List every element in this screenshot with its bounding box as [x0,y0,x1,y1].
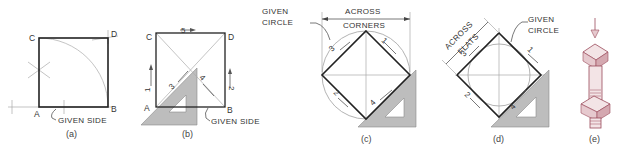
given-circle-label-line-1: GIVEN [262,7,288,16]
across-label-line-1: ACROSS [345,7,381,16]
step-number-1: 1 [380,36,390,46]
arrow-head [228,68,232,74]
step-arrow-2 [470,98,480,108]
step-arrow-4 [203,84,214,96]
bolt-threaded-end [590,118,601,128]
across-label-line-2: CORNERS [343,21,385,30]
leader-line [205,108,210,121]
step-number-4: 4 [198,73,208,83]
panel-a: C D A B GIVEN SIDE (a) [8,29,118,139]
extension-line [484,18,499,33]
vertex-d: D [228,32,234,42]
given-circle-label-line-2: CIRCLE [528,26,559,35]
square-outline [39,38,108,107]
step-number-2: 2 [227,86,236,91]
vertex-c: C [29,33,35,43]
vertex-d: D [111,29,117,39]
step-number-4: 4 [368,98,378,108]
triangle-template [141,68,197,125]
caption-c: (c) [361,134,372,144]
vertex-a: A [144,103,150,113]
step-number-1: 1 [143,87,152,92]
step-number-5: 5 [181,26,186,35]
step-arrow-1 [384,42,396,54]
view-direction-arrow-icon [591,30,599,38]
arrow-head [404,17,410,21]
vertex-b: B [227,105,233,115]
square-construction-diagram: C D A B GIVEN SIDE (a) 1 2 3 4 5 C D [0,0,624,154]
vertex-b: B [111,104,117,114]
triangle-template [491,70,549,127]
caption-a: (a) [66,129,77,139]
arrow-head [190,28,196,32]
construction-arc [39,38,108,107]
step-number-1: 1 [526,45,536,55]
vertex-a: A [34,109,40,119]
leader-line [511,22,528,42]
leader-line [310,23,330,40]
given-circle-label-line-1: GIVEN [528,15,554,24]
arrow-head [149,64,153,70]
step-arrow-1 [528,54,538,63]
bolt-shank [589,66,602,100]
extension-line [442,60,457,75]
caption-e: (e) [589,134,600,144]
panel-e: (e) [581,18,610,144]
caption-d: (d) [493,134,504,144]
given-circle-label-line-2: CIRCLE [262,18,293,27]
given-side-label: GIVEN SIDE [211,117,260,126]
given-side-label: GIVEN SIDE [58,116,107,125]
vertex-c: C [146,32,152,42]
arrow-head [322,17,328,21]
leader-line [52,109,57,120]
panel-d: 3 1 2 4 ACROSS FLATS GIVEN CIRCLE (d) [442,15,559,144]
panel-b: 1 2 3 4 5 C D A B GIVEN SIDE (b) [141,26,260,139]
panel-c: 3 1 2 4 GIVEN CIRCLE ACROSS CORNERS (c) [262,7,416,144]
caption-b: (b) [182,129,193,139]
